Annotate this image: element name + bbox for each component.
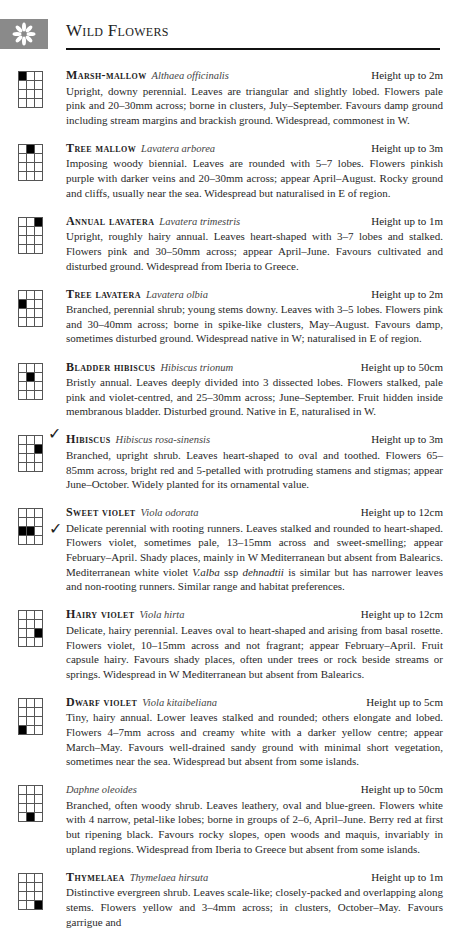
latin-name: Viola odorata [141,507,199,518]
entry-heading: Dwarf violetViola kitaibelianaHeight up … [66,695,443,711]
common-name: Dwarf violet [66,695,137,709]
grid-cell [35,99,43,108]
height-label: Height up to 2m [371,68,443,83]
entry-text: Tree mallowLavatera arboreaHeight up to … [66,141,443,200]
grid-cell [19,245,27,254]
grid-cell [19,463,27,472]
names: HibiscusHibiscus rosa-sinensis [66,432,210,448]
grid-cell [27,445,35,454]
grid-cell [19,454,27,463]
entry-text: Tree lavateraLavatera olbiaHeight up to … [66,287,443,346]
grid-cell [19,81,27,90]
description: Branched, perennial shrub; young stems d… [66,302,443,346]
latin-name: Lavatera olbia [146,289,208,300]
grid-cell [19,509,27,518]
common-name: Hibiscus [66,432,111,446]
grid-cell [35,611,43,620]
grid-cell [27,795,35,804]
entry-text: Sweet violetViola odorataHeight up to 12… [66,505,443,594]
description-fragment: ssp [220,566,243,578]
grid-cell [35,527,43,536]
grid-cell [35,291,43,300]
grid-cell [35,309,43,318]
grid-cell [19,391,27,400]
entry-heading: ThymelaeaThymelaea hirsutaHeight up to 1… [66,870,443,886]
grid-cell [19,445,27,454]
grid-cell [19,629,27,638]
grid-cell [35,90,43,99]
species-reference: V.alba [192,566,220,578]
checkmark-icon: ✓ [48,426,61,442]
entry-heading: Daphne oleoidesHeight up to 50cm [66,782,443,798]
latin-name: Lavatera trimestris [159,216,240,227]
grid-cell [35,536,43,545]
species-entry: ✓HibiscusHibiscus rosa-sinensisHeight up… [0,432,467,491]
grid-cell [19,804,27,813]
grid-cell [27,291,35,300]
grid-cell [27,620,35,629]
grid-cell [27,245,35,254]
common-name: Sweet violet [66,505,136,519]
entry-text: Bladder hibiscusHibiscus trionumHeight u… [66,360,443,419]
grid-cell [19,99,27,108]
grid-cell [35,518,43,527]
grid-cell [27,892,35,901]
grid-cell [27,527,35,536]
grid-cell [35,373,43,382]
grid-cell [27,883,35,892]
names: ThymelaeaThymelaea hirsuta [66,870,208,886]
flowering-grid-icon [18,435,43,472]
latin-name: Viola hirta [139,609,184,620]
grid-cell [27,874,35,883]
grid-cell [35,795,43,804]
grid-cell [27,145,35,154]
grid-cell [27,509,35,518]
grid-cell [19,300,27,309]
entry-heading: Hairy violetViola hirtaHeight up to 12cm [66,607,443,623]
grid-cell [27,318,35,327]
grid-cell [19,795,27,804]
height-label: Height up to 2m [371,287,443,302]
latin-name: Lavatera arborea [141,143,215,154]
grid-cell [35,786,43,795]
grid-cell [35,72,43,81]
grid-cell [19,291,27,300]
grid-cell [35,382,43,391]
grid-cell [35,154,43,163]
grid-cell [35,883,43,892]
flowering-grid-icon [18,71,43,108]
grid-cell [35,172,43,181]
grid-cell [35,813,43,822]
grid-cell [19,145,27,154]
names: Hairy violetViola hirta [66,607,184,623]
grid-cell [35,436,43,445]
grid-cell [19,717,27,726]
grid-cell [19,536,27,545]
grid-cell [35,236,43,245]
grid-cell [19,699,27,708]
grid-cell [27,518,35,527]
grid-cell [19,218,27,227]
entry-heading: Sweet violetViola odorataHeight up to 12… [66,505,443,521]
grid-cell [27,300,35,309]
grid-cell [35,638,43,647]
grid-cell [35,364,43,373]
species-entry: Daphne oleoidesHeight up to 50cmBranched… [0,782,467,856]
grid-cell [19,726,27,735]
grid-cell [35,509,43,518]
grid-cell [35,445,43,454]
checkmark-icon: ✓ [49,521,62,537]
species-list: Marsh-mallowAlthaea officinalisHeight up… [0,68,467,932]
grid-cell [27,813,35,822]
height-label: Height up to 3m [371,432,443,447]
page-title: Wild Flowers [66,21,169,41]
grid-cell [19,72,27,81]
grid-cell [27,81,35,90]
section-tab [0,19,48,49]
common-name: Tree mallow [66,141,136,155]
entry-text: Daphne oleoidesHeight up to 50cmBranched… [66,782,443,856]
grid-cell [27,611,35,620]
grid-cell [19,364,27,373]
latin-name: Hibiscus rosa-sinensis [116,434,210,445]
entry-heading: HibiscusHibiscus rosa-sinensisHeight up … [66,432,443,448]
